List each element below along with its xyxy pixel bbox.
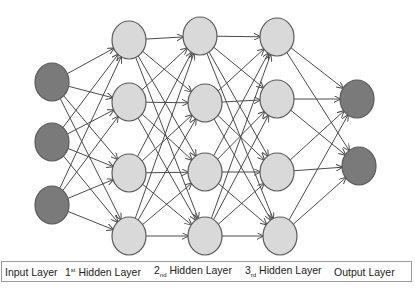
- hidden-node: [112, 154, 146, 192]
- hidden-node: [188, 84, 222, 122]
- edge-arrow: [217, 36, 260, 37]
- hidden-node: [188, 217, 222, 255]
- hidden-node: [188, 153, 222, 191]
- edge-arrow: [146, 37, 183, 39]
- label-hidden-layer-2: 2nd Hidden Layer: [154, 264, 232, 278]
- edge-arrow: [68, 148, 113, 166]
- hidden-node: [263, 217, 297, 255]
- edge-arrow: [218, 184, 263, 224]
- edge-arrow: [291, 48, 343, 88]
- input-node: [35, 63, 69, 101]
- edge-arrow: [218, 49, 264, 91]
- edge-arrow: [143, 51, 192, 91]
- output-node: [342, 147, 376, 185]
- hidden-node: [260, 80, 294, 118]
- label-hidden-layer-1: 1st Hidden Layer: [65, 266, 141, 278]
- edge-arrow: [68, 211, 113, 229]
- neuron-nodes: [35, 17, 376, 255]
- edge-arrow: [69, 86, 113, 97]
- edge-arrow: [63, 55, 118, 128]
- layer-label-bar: Input Layer 1st Hidden Layer 2nd Hidden …: [1, 261, 412, 282]
- input-node: [35, 123, 69, 161]
- hidden-node: [260, 18, 294, 56]
- connection-edges: [60, 36, 349, 236]
- input-node: [35, 186, 69, 224]
- neural-network-diagram: [0, 0, 415, 262]
- label-output-layer: Output Layer: [334, 266, 395, 278]
- hidden-node: [112, 21, 146, 59]
- label-input-layer: Input Layer: [5, 266, 58, 278]
- edge-arrow: [68, 180, 113, 199]
- hidden-node: [260, 153, 294, 191]
- hidden-node: [112, 83, 146, 121]
- edge-arrow: [60, 99, 120, 220]
- hidden-node: [112, 217, 146, 255]
- edge-arrow: [219, 184, 267, 225]
- hidden-node: [183, 17, 217, 55]
- edge-arrow: [146, 172, 188, 173]
- edge-arrow: [142, 48, 187, 90]
- edge-arrow: [146, 102, 188, 103]
- edge-arrow: [211, 55, 270, 219]
- edge-arrow: [290, 111, 344, 160]
- output-node: [340, 80, 374, 118]
- label-hidden-layer-3: 3rd Hidden Layer: [245, 264, 322, 278]
- edge-arrow: [214, 47, 264, 88]
- edge-arrow: [293, 178, 345, 224]
